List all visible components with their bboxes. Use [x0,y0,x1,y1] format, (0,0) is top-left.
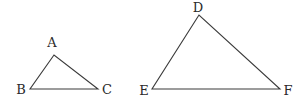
vertex-label-d: D [193,0,203,15]
triangle-abc: A B C [16,35,112,97]
vertex-label-a: A [46,35,57,50]
vertex-label-f: F [283,83,292,98]
vertex-label-e: E [139,83,149,98]
triangle-abc-outline [30,55,98,89]
triangle-def: D E F [139,0,292,98]
triangle-def-outline [152,15,280,89]
vertex-label-c: C [102,82,112,97]
vertex-label-b: B [16,82,26,97]
similar-triangles-diagram: A B C D E F [0,0,307,103]
